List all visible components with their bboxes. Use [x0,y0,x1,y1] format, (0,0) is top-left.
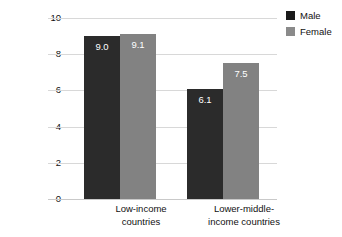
bar-value-label: 9.0 [84,41,120,52]
bar-value-label: 7.5 [223,68,259,79]
x-category-label-lower-middle-income: Lower-middle- income countries [190,203,298,228]
gridline-10 [48,18,277,19]
legend-label-male: Male [300,10,321,21]
legend-swatch-icon [286,11,295,20]
gridline-8 [48,54,277,55]
gridline-0 [48,199,277,200]
x-category-label-low-income: Low-income countries [96,203,186,228]
legend-swatch-icon [286,27,295,36]
bar-low-income-male: 9.0 [84,36,120,199]
legend-item-female: Female [286,26,332,37]
bar-value-label: 6.1 [187,94,223,105]
bar-lower-middle-income-male: 6.1 [187,89,223,199]
legend: Male Female [286,10,332,42]
bar-lower-middle-income-female: 7.5 [223,63,259,199]
legend-item-male: Male [286,10,332,21]
legend-label-female: Female [300,26,332,37]
bar-chart: Gains in life expectancy (years) 10 8 6 … [0,0,342,237]
bar-low-income-female: 9.1 [120,34,156,199]
bar-value-label: 9.1 [120,39,156,50]
plot-area: 9.0 9.1 6.1 7.5 [48,18,277,199]
